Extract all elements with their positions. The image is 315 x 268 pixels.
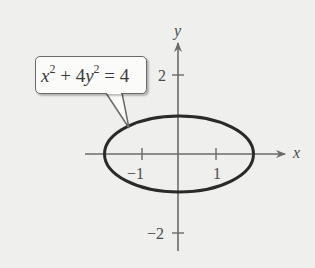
- x-axis-label: x: [293, 145, 300, 161]
- tick-label-x-1: 1: [213, 166, 221, 182]
- callout-pointer: [106, 93, 129, 128]
- y-axis-label: y: [174, 23, 181, 39]
- tick-label-y-neg2: −2: [147, 226, 164, 242]
- tick-label-x-neg1: −1: [127, 166, 144, 182]
- tick-label-y-2: 2: [158, 68, 166, 84]
- equation-label: x2 + 4y2 = 4: [41, 65, 129, 87]
